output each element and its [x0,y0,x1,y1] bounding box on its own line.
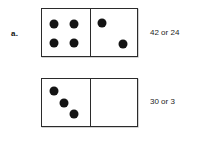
pip [119,39,128,48]
pip [70,109,79,118]
domino-bottom-left-half [42,79,90,126]
pip [60,98,69,107]
domino-top-right-half [90,9,138,56]
pip [50,38,59,47]
domino-bottom [41,78,138,127]
answer-choice-bottom: 30 or 3 [150,97,175,107]
pip [50,87,59,96]
problem-label: a. [11,29,18,39]
domino-top [41,8,138,57]
pip [50,19,59,28]
domino-bottom-right-half [90,79,138,126]
pip [70,38,79,47]
domino-top-left-half [42,9,90,56]
pip [70,19,79,28]
answer-choice-top: 42 or 24 [150,28,179,38]
pip [97,19,106,28]
